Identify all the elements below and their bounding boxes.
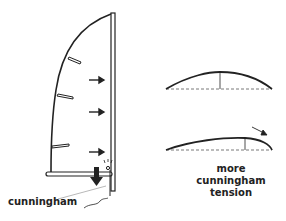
tension-caption-line-2: cunningham bbox=[196, 175, 266, 187]
deck-outline bbox=[84, 198, 108, 208]
draft-shift-arrow-icon bbox=[252, 127, 267, 135]
tension-caption-line-1: more bbox=[196, 163, 266, 175]
battens bbox=[52, 57, 81, 148]
foil-tensioned-draft bbox=[166, 138, 272, 150]
wind-arrows bbox=[89, 77, 104, 155]
cunningham-grommet bbox=[106, 166, 109, 169]
cunningham-label: cunningham bbox=[8, 196, 77, 208]
tension-caption-line-3: tension bbox=[196, 187, 266, 199]
mast bbox=[111, 13, 115, 191]
tension-caption: more cunningham tension bbox=[196, 163, 266, 199]
sail-leech bbox=[51, 14, 111, 172]
foil-normal-draft bbox=[166, 72, 272, 89]
boom bbox=[46, 172, 112, 176]
